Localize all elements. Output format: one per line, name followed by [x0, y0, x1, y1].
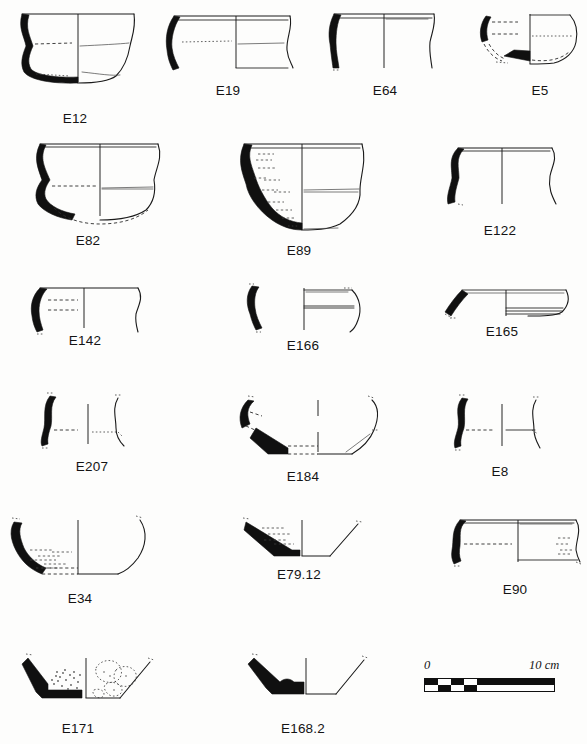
- caption-E122: E122: [484, 224, 516, 238]
- figure-E8: [440, 390, 564, 456]
- figure-E12: [8, 6, 148, 92]
- caption-E8: E8: [492, 465, 509, 479]
- figure-E89: [228, 134, 378, 238]
- caption-E166: E166: [287, 339, 319, 353]
- caption-E207: E207: [76, 460, 108, 474]
- figure-E34: [0, 506, 168, 586]
- figure-E165: [432, 278, 572, 328]
- figure-E168-2: [232, 644, 382, 704]
- caption-E34: E34: [68, 592, 93, 606]
- caption-E165: E165: [486, 325, 518, 339]
- scale-bar: [424, 678, 556, 698]
- figure-E90: [440, 508, 586, 570]
- figure-E122: [436, 134, 564, 218]
- caption-E82: E82: [76, 234, 101, 248]
- figure-E19: [156, 8, 296, 78]
- caption-E64: E64: [373, 84, 398, 98]
- caption-E79.12: E79.12: [277, 568, 321, 582]
- figure-E207: [26, 388, 158, 452]
- caption-E142: E142: [69, 334, 101, 348]
- figure-E171: [8, 642, 168, 706]
- caption-E19: E19: [216, 84, 241, 98]
- figure-E166: [240, 278, 370, 336]
- caption-E168.2: E168.2: [281, 722, 325, 736]
- caption-E171: E171: [62, 722, 94, 736]
- figure-E142: [22, 278, 156, 338]
- scale-zero-label: 0: [424, 659, 430, 672]
- figure-E64: [322, 6, 446, 74]
- pottery-plate: E12 E19 E64: [0, 0, 587, 744]
- caption-E5: E5: [532, 84, 549, 98]
- scale-max-label: 10 cm: [529, 659, 559, 672]
- figure-E5: [474, 6, 586, 74]
- caption-E184: E184: [287, 470, 319, 484]
- caption-E90: E90: [503, 583, 528, 597]
- figure-E82: [20, 134, 170, 230]
- figure-E79-12: [232, 508, 372, 564]
- caption-E12: E12: [63, 112, 88, 126]
- caption-E89: E89: [287, 244, 312, 258]
- figure-E184: [222, 386, 382, 460]
